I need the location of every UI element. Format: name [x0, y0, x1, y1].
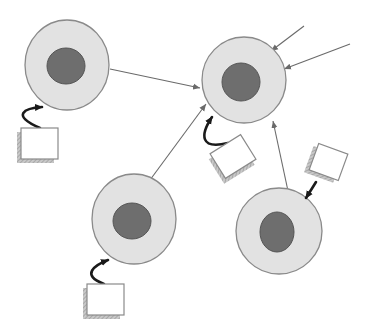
arrow-external-2-to-hub [284, 44, 350, 69]
box-face [21, 128, 58, 159]
cell-bottom-left [92, 174, 176, 264]
cell-signaling-diagram [0, 0, 368, 329]
arrow-bottomleft-to-hub [150, 104, 206, 180]
nucleus [260, 212, 294, 252]
diagram-svg [0, 0, 368, 329]
signal-box [83, 284, 124, 319]
signal-box [17, 128, 58, 163]
signal-curve-arrow [23, 107, 42, 128]
arrow-bottomright-to-hub [273, 121, 288, 191]
cells-layer [25, 20, 322, 274]
box-bottom-left [83, 260, 124, 319]
box-hub [204, 117, 258, 184]
nucleus [47, 48, 85, 84]
nucleus [113, 203, 151, 239]
arrow-topleft-to-hub [110, 69, 200, 88]
signal-curve-arrow [204, 117, 228, 145]
box-bottom-right [304, 142, 348, 198]
signal-curve-arrow [91, 260, 108, 284]
cell-top-left [25, 20, 109, 110]
arrow-external-1-to-hub [271, 26, 304, 51]
box-face [87, 284, 124, 315]
nucleus [222, 63, 260, 101]
cell-bottom-right [236, 188, 322, 274]
signal-box [304, 142, 348, 184]
box-top-left [17, 107, 58, 163]
cell-hub [202, 37, 286, 123]
signal-box [207, 135, 258, 184]
signal-curve-arrow [306, 182, 316, 198]
